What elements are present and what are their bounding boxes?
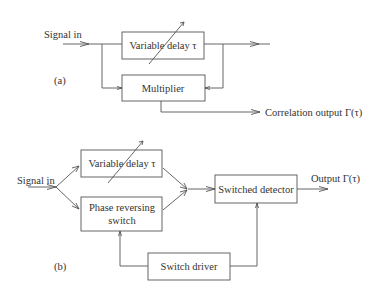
signal-in-label-b: Signal in — [17, 175, 55, 186]
switched-detector-label: Switched detector — [218, 184, 294, 195]
figure-a-label: (a) — [54, 75, 66, 87]
figure-b-label: (b) — [54, 261, 67, 273]
phase-switch-label-line1: Phase reversing — [89, 202, 156, 213]
variable-delay-label-a: Variable delay τ — [129, 40, 196, 51]
merge-upper-line — [163, 168, 187, 189]
correlation-output-label: Correlation output Γ(τ) — [265, 107, 363, 119]
merge-lower-line — [163, 190, 187, 210]
diagram-a: Signal in Variable delay τ Multiplier (a… — [44, 22, 363, 119]
correlator-diagrams: Signal in Variable delay τ Multiplier (a… — [0, 0, 377, 291]
fork-down-line — [56, 187, 79, 209]
driver-to-detector-line — [230, 203, 257, 266]
phase-switch-label-line2: switch — [108, 215, 136, 226]
branch-to-multiplier-line — [102, 44, 122, 88]
output-label-b: Output Γ(τ) — [311, 173, 361, 185]
correlation-output-line — [161, 101, 260, 112]
variable-delay-label-b: Variable delay τ — [88, 158, 155, 169]
feedback-to-multiplier-line — [205, 44, 223, 88]
multiplier-label: Multiplier — [142, 83, 185, 94]
fork-up-line — [56, 166, 79, 187]
diagram-b: Signal in Variable delay τ Phase reversi… — [17, 141, 361, 280]
driver-to-switch-line — [120, 231, 148, 266]
signal-in-label-a: Signal in — [44, 29, 82, 40]
switch-driver-label: Switch driver — [161, 261, 218, 272]
